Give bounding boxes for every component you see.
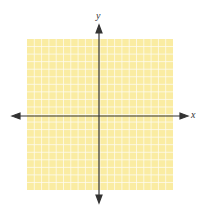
- y-axis-up-arrow-icon: [96, 25, 102, 33]
- x-axis-left-arrow-icon: [12, 113, 20, 119]
- x-axis-label: x: [191, 109, 195, 120]
- x-axis-right-arrow-icon: [180, 113, 188, 119]
- y-axis-down-arrow-icon: [96, 195, 102, 203]
- coordinate-plane-svg: [0, 0, 205, 209]
- grid-lines: [27, 39, 173, 190]
- y-axis-label: y: [96, 10, 100, 21]
